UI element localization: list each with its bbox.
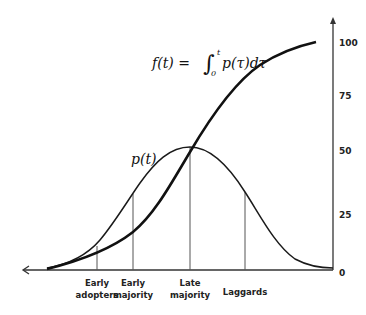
category-laggards: Laggards: [223, 287, 267, 297]
category-early-majority-line1: Early: [121, 278, 146, 288]
y-axis-arrow-icon: [330, 17, 336, 24]
y-tick-50: 50: [339, 146, 352, 156]
integral-lower-limit: 0: [211, 69, 216, 78]
y-tick-100: 100: [339, 38, 358, 48]
y-tick-75: 75: [339, 91, 352, 101]
diffusion-chart: 100 75 50 25 0 f(t) = ∫ t 0 p(τ)dτ p(t) …: [0, 0, 366, 315]
s-curve-f-t: [47, 42, 316, 269]
cumulative-label-integrand: p(τ)dτ: [222, 55, 267, 71]
category-late-majority-line1: Late: [180, 278, 201, 288]
category-late-majority-line2: majority: [170, 290, 211, 300]
y-tick-25: 25: [339, 210, 352, 220]
category-early-majority-line2: majority: [113, 290, 154, 300]
integral-upper-limit: t: [217, 48, 221, 57]
y-tick-0: 0: [339, 268, 345, 278]
category-early-adopters-line1: Early: [85, 278, 110, 288]
density-label: p(t): [131, 151, 157, 167]
cumulative-label-lhs: f(t) =: [151, 55, 190, 71]
